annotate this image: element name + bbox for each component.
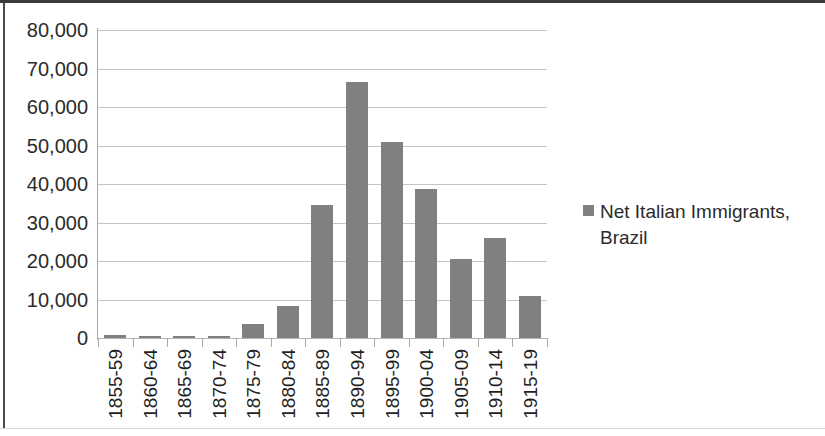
x-axis-label-slot: 1870-74 bbox=[202, 349, 237, 433]
x-axis-category-label: 1860-64 bbox=[140, 349, 159, 419]
x-axis-tick-mark bbox=[478, 338, 479, 347]
y-axis-tick-label: 0 bbox=[0, 328, 88, 348]
legend-swatch-icon bbox=[583, 205, 594, 216]
x-axis-tick-mark bbox=[340, 338, 341, 347]
bar-slot bbox=[98, 30, 133, 338]
x-axis-tick-mark bbox=[443, 338, 444, 347]
bar[interactable] bbox=[415, 189, 437, 338]
x-axis-tick-mark bbox=[374, 338, 375, 347]
y-axis-tick-label: 10,000 bbox=[0, 290, 88, 310]
bar-series bbox=[98, 30, 547, 338]
bar-slot bbox=[443, 30, 478, 338]
legend-item: Net Italian Immigrants, Brazil bbox=[583, 199, 819, 250]
bar[interactable] bbox=[519, 296, 541, 338]
x-axis-category-label: 1915-19 bbox=[520, 349, 539, 419]
bar[interactable] bbox=[311, 205, 333, 338]
x-axis-category-label: 1855-59 bbox=[106, 349, 125, 419]
bar[interactable] bbox=[346, 82, 368, 338]
x-axis-label-slot: 1910-14 bbox=[478, 349, 513, 433]
x-axis-category-label: 1895-99 bbox=[382, 349, 401, 419]
bar-slot bbox=[167, 30, 202, 338]
x-axis-tick-mark bbox=[512, 338, 513, 347]
x-axis-tick-mark bbox=[133, 338, 134, 347]
x-axis-label-slot: 1915-19 bbox=[512, 349, 547, 433]
x-axis-category-label: 1875-79 bbox=[244, 349, 263, 419]
bar-slot bbox=[340, 30, 375, 338]
x-axis-tick-mark bbox=[271, 338, 272, 347]
x-axis-tick-mark bbox=[236, 338, 237, 347]
bar-slot bbox=[409, 30, 444, 338]
x-axis-label-slot: 1860-64 bbox=[133, 349, 168, 433]
x-axis-tick-mark bbox=[409, 338, 410, 347]
bar[interactable] bbox=[242, 324, 264, 338]
x-axis-label-slot: 1855-59 bbox=[98, 349, 133, 433]
y-axis-tick-label: 60,000 bbox=[0, 97, 88, 117]
bar-slot bbox=[374, 30, 409, 338]
y-axis-tick-label: 50,000 bbox=[0, 136, 88, 156]
bar[interactable] bbox=[381, 142, 403, 338]
y-axis-tick-label: 30,000 bbox=[0, 213, 88, 233]
chart-legend: Net Italian Immigrants, Brazil bbox=[583, 199, 819, 250]
chart-screenshot: 010,00020,00030,00040,00050,00060,00070,… bbox=[0, 0, 825, 436]
x-axis-tick-mark bbox=[305, 338, 306, 347]
bar[interactable] bbox=[484, 238, 506, 338]
x-axis-label-slot: 1890-94 bbox=[340, 349, 375, 433]
plot-area bbox=[98, 30, 547, 338]
bar[interactable] bbox=[450, 259, 472, 338]
x-axis-label-slot: 1900-04 bbox=[409, 349, 444, 433]
x-axis-label-slot: 1905-09 bbox=[443, 349, 478, 433]
x-axis-label-slot: 1880-84 bbox=[271, 349, 306, 433]
x-axis-tick-mark bbox=[547, 338, 548, 347]
legend-item-label: Net Italian Immigrants, Brazil bbox=[600, 199, 815, 250]
x-axis-category-label: 1885-89 bbox=[313, 349, 332, 419]
bar-slot bbox=[478, 30, 513, 338]
bar-slot bbox=[236, 30, 271, 338]
y-axis-tick-label: 70,000 bbox=[0, 59, 88, 79]
x-axis-category-label: 1865-69 bbox=[175, 349, 194, 419]
x-axis-label-slot: 1895-99 bbox=[374, 349, 409, 433]
x-axis-label-slot: 1885-89 bbox=[305, 349, 340, 433]
x-axis-tick-mark bbox=[98, 338, 99, 347]
x-axis-tick-marks bbox=[98, 338, 547, 347]
y-axis-tick-label: 80,000 bbox=[0, 20, 88, 40]
bar-slot bbox=[305, 30, 340, 338]
x-axis-tick-mark bbox=[167, 338, 168, 347]
bar-chart: 010,00020,00030,00040,00050,00060,00070,… bbox=[0, 0, 825, 436]
bar-slot bbox=[133, 30, 168, 338]
x-axis-category-label: 1880-84 bbox=[278, 349, 297, 419]
y-axis-tick-label: 40,000 bbox=[0, 174, 88, 194]
bar-slot bbox=[271, 30, 306, 338]
x-axis-category-label: 1900-04 bbox=[417, 349, 436, 419]
bar-slot bbox=[202, 30, 237, 338]
x-axis-category-label: 1870-74 bbox=[209, 349, 228, 419]
x-axis-label-slot: 1865-69 bbox=[167, 349, 202, 433]
x-axis-category-label: 1905-09 bbox=[451, 349, 470, 419]
x-axis-category-labels: 1855-591860-641865-691870-741875-791880-… bbox=[98, 349, 547, 433]
x-axis-category-label: 1890-94 bbox=[348, 349, 367, 419]
bar[interactable] bbox=[277, 306, 299, 338]
x-axis-tick-mark bbox=[202, 338, 203, 347]
x-axis-label-slot: 1875-79 bbox=[236, 349, 271, 433]
x-axis-category-label: 1910-14 bbox=[486, 349, 505, 419]
y-axis-tick-label: 20,000 bbox=[0, 251, 88, 271]
bar-slot bbox=[512, 30, 547, 338]
